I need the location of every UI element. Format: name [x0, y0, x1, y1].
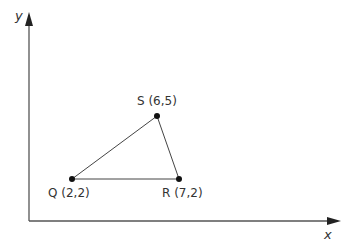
point-r-label: R (7,2): [162, 186, 203, 200]
point-q: [69, 176, 75, 182]
point-s-label: S (6,5): [137, 94, 177, 108]
point-r: [176, 176, 182, 182]
triangle-qrs: [72, 116, 179, 179]
y-axis-label: y: [14, 8, 23, 23]
x-axis-arrow-icon: [327, 217, 341, 225]
coordinate-diagram: y x Q (2,2) R (7,2) S (6,5): [0, 0, 350, 246]
point-q-label: Q (2,2): [48, 186, 90, 200]
x-axis-label: x: [323, 227, 332, 242]
point-s: [154, 113, 160, 119]
y-axis-arrow-icon: [25, 12, 33, 26]
